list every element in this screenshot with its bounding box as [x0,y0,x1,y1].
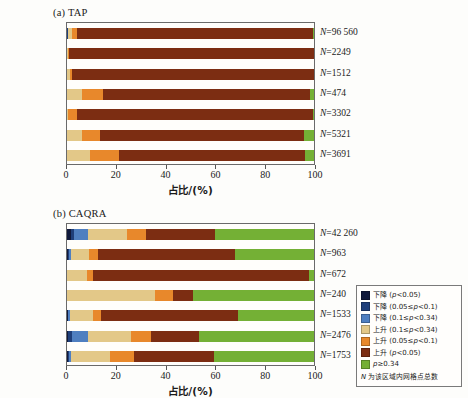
bar-row [67,130,314,141]
bar-segment [93,270,309,281]
bar-segment [173,290,193,301]
n-label: N=963 [320,248,346,259]
bar-row [67,89,314,100]
legend-note: N 为该区域内网格点总数 [361,371,458,382]
bar-segment [131,331,151,342]
bar-segment [151,331,199,342]
legend: 下降 (p<0.05)下降 (0.05≤p<0.1)下降 (0.1≤p<0.34… [356,285,462,387]
legend-label: 下降 (0.1≤p<0.34) [373,314,438,322]
n-label: N=1753 [320,350,351,361]
stacked-bar [67,270,314,281]
plot-area-caqra [66,223,315,366]
bar-segment [67,290,155,301]
legend-item: p≥0.34 [361,359,458,369]
legend-item: 上升 (0.05≤p<0.1) [361,336,458,346]
bar-segment [67,89,82,100]
n-label: N=2249 [320,47,351,58]
legend-label: 上升 (0.1≤p<0.34) [373,326,438,334]
legend-item: 下降 (0.1≤p<0.34) [361,313,458,323]
legend-swatch [361,325,370,334]
bar-segment [71,249,90,260]
bar-segment [74,229,88,240]
stacked-bar [67,351,314,362]
n-label: N=2476 [320,330,351,341]
bar-segment [235,249,314,260]
bar-segment [68,109,77,120]
bar-segment [309,270,314,281]
x-axis-tap: 占比/(%) 020406080100 [66,165,315,191]
stacked-bar [67,109,314,120]
bar-row [67,48,314,59]
bar-segment [127,229,146,240]
stacked-bar [67,69,314,80]
legend-label: 上升 (0.05≤p<0.1) [373,337,438,345]
stacked-bar [67,331,314,342]
stacked-bar [67,130,314,141]
bar-segment [77,109,313,120]
bar-segment [103,89,310,100]
bar-segment [67,130,82,141]
legend-item: 下降 (0.05≤p<0.1) [361,302,458,312]
stacked-bar [67,150,314,161]
n-label: N=474 [320,88,346,99]
chart-panel-tap: (a) TAP 占比/(%) 020406080100 全国N=96 560京津… [0,0,468,199]
bar-row [67,270,314,281]
bar-segment [93,310,100,321]
stacked-bar [67,249,314,260]
axis-tick-label: 80 [260,370,270,381]
bar-segment [313,28,314,39]
legend-item: 上升 (p<0.05) [361,348,458,358]
n-label: N=672 [320,269,346,280]
x-axis-title: 占比/(%) [66,383,315,398]
legend-items: 下降 (p<0.05)下降 (0.05≤p<0.1)下降 (0.1≤p<0.34… [361,290,458,369]
bar-row [67,351,314,362]
x-axis-caqra: 占比/(%) 020406080100 [66,366,315,392]
legend-item: 上升 (0.1≤p<0.34) [361,325,458,335]
stacked-bar [67,28,314,39]
n-label: N=240 [320,289,346,300]
legend-swatch [361,291,370,300]
bar-segment [110,351,133,362]
bar-segment [199,331,314,342]
plot-area-tap [66,22,315,165]
bar-segment [101,310,238,321]
bar-segment [305,150,314,161]
bar-row [67,331,314,342]
bar-segment [146,229,215,240]
bar-segment [119,150,305,161]
bar-rows-caqra [67,224,314,365]
bar-segment [72,331,88,342]
bar-segment [90,150,118,161]
bar-segment [193,290,314,301]
axis-tick-label: 100 [308,169,323,180]
n-label: N=42 260 [320,228,358,239]
x-axis-title: 占比/(%) [66,182,315,197]
legend-swatch [361,314,370,323]
legend-label: 上升 (p<0.05) [373,349,421,357]
bar-segment [238,310,314,321]
bar-segment [67,270,87,281]
bar-row [67,310,314,321]
bar-segment [98,249,235,260]
bar-segment [82,130,101,141]
bar-segment [77,28,313,39]
n-label: N=96 560 [320,27,358,38]
bar-row [67,109,314,120]
panel-b-title: (b) CAQRA [53,208,106,219]
bar-segment [67,150,90,161]
bar-segment [214,351,314,362]
legend-item: 下降 (p<0.05) [361,290,458,300]
legend-label: 下降 (0.05≤p<0.1) [373,303,438,311]
axis-tick-label: 40 [161,169,171,180]
axis-tick-label: 20 [111,370,121,381]
bar-segment [304,130,314,141]
bar-row [67,28,314,39]
legend-swatch [361,337,370,346]
bar-segment [70,310,93,321]
n-label: N=3302 [320,108,351,119]
bar-segment [88,229,128,240]
bar-segment [88,331,131,342]
bar-row [67,69,314,80]
legend-swatch [361,302,370,311]
bar-segment [69,48,314,59]
